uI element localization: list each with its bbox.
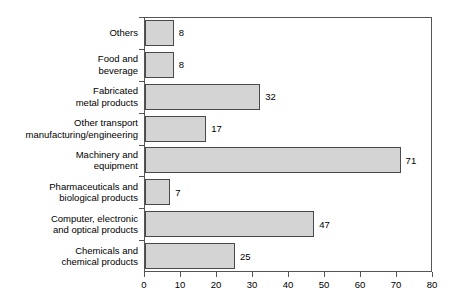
bar-value-label: 7 xyxy=(175,176,180,208)
y-axis-tick xyxy=(139,113,144,114)
y-axis-tick xyxy=(139,81,144,82)
category-label-line: Other transport xyxy=(74,117,138,129)
bar xyxy=(145,20,174,46)
x-axis-tick xyxy=(324,272,325,277)
x-axis-tick-label: 60 xyxy=(345,279,375,290)
bar xyxy=(145,52,174,78)
category-label-line: Others xyxy=(109,27,138,39)
category-label-line: chemical products xyxy=(61,256,138,268)
x-axis-tick xyxy=(216,272,217,277)
bar-row: Other transportmanufacturing/engineering… xyxy=(0,113,451,145)
category-label-line: Computer, electronic xyxy=(51,213,138,225)
category-label-line: and optical products xyxy=(53,224,138,236)
y-axis-tick xyxy=(139,240,144,241)
bar-chart: Others8Food andbeverage8Fabricatedmetal … xyxy=(0,0,451,305)
y-axis-tick xyxy=(139,49,144,50)
bar-value-label: 25 xyxy=(240,240,251,272)
x-axis-tick xyxy=(288,272,289,277)
bar-row: Others8 xyxy=(0,17,451,49)
x-axis: 01020304050607080 xyxy=(144,272,433,305)
x-axis-tick xyxy=(432,272,433,277)
category-label-line: Fabricated xyxy=(93,85,138,97)
category-label-line: Chemicals and xyxy=(75,245,138,257)
category-label-line: beverage xyxy=(98,65,138,77)
bar-value-label: 47 xyxy=(319,208,330,240)
category-label-line: equipment xyxy=(94,160,138,172)
category-label-line: Food and xyxy=(98,53,138,65)
x-axis-tick xyxy=(396,272,397,277)
y-axis-tick xyxy=(139,176,144,177)
bar xyxy=(145,147,401,173)
bar-row: Machinery andequipment71 xyxy=(0,145,451,177)
x-axis-tick-label: 80 xyxy=(417,279,447,290)
category-label: Computer, electronicand optical products xyxy=(0,208,138,240)
bar-value-label: 17 xyxy=(211,113,222,145)
x-axis-tick xyxy=(252,272,253,277)
x-axis-tick-label: 50 xyxy=(309,279,339,290)
category-label-line: Pharmaceuticals and xyxy=(49,181,138,193)
bar xyxy=(145,116,206,142)
x-axis-tick xyxy=(360,272,361,277)
x-axis-tick-label: 10 xyxy=(165,279,195,290)
bar-row: Food andbeverage8 xyxy=(0,49,451,81)
bar-row: Pharmaceuticals andbiological products7 xyxy=(0,176,451,208)
bar-row: Fabricatedmetal products32 xyxy=(0,81,451,113)
category-label: Chemicals andchemical products xyxy=(0,240,138,272)
y-axis-tick xyxy=(139,208,144,209)
category-label: Fabricatedmetal products xyxy=(0,81,138,113)
bar-value-label: 71 xyxy=(406,145,417,177)
x-axis-tick xyxy=(180,272,181,277)
x-axis-tick-label: 20 xyxy=(201,279,231,290)
category-label-line: metal products xyxy=(76,97,138,109)
y-axis-tick xyxy=(139,145,144,146)
x-axis-tick-label: 40 xyxy=(273,279,303,290)
bar-value-label: 8 xyxy=(179,49,184,81)
bar-row: Chemicals andchemical products25 xyxy=(0,240,451,272)
category-label: Pharmaceuticals andbiological products xyxy=(0,176,138,208)
bar xyxy=(145,243,235,269)
x-axis-tick xyxy=(144,272,145,277)
category-label: Food andbeverage xyxy=(0,49,138,81)
category-label-line: biological products xyxy=(59,192,138,204)
x-axis-tick-label: 30 xyxy=(237,279,267,290)
x-axis-tick-label: 0 xyxy=(129,279,159,290)
bar-row: Computer, electronicand optical products… xyxy=(0,208,451,240)
bar xyxy=(145,84,260,110)
category-label: Others xyxy=(0,17,138,49)
bar xyxy=(145,211,314,237)
x-axis-tick-label: 70 xyxy=(381,279,411,290)
bar xyxy=(145,179,170,205)
y-axis-tick xyxy=(139,17,144,18)
category-label-line: Machinery and xyxy=(76,149,138,161)
category-label: Other transportmanufacturing/engineering xyxy=(0,113,138,145)
bar-value-label: 8 xyxy=(179,17,184,49)
category-label-line: manufacturing/engineering xyxy=(26,129,139,141)
bar-value-label: 32 xyxy=(265,81,276,113)
category-label: Machinery andequipment xyxy=(0,145,138,177)
